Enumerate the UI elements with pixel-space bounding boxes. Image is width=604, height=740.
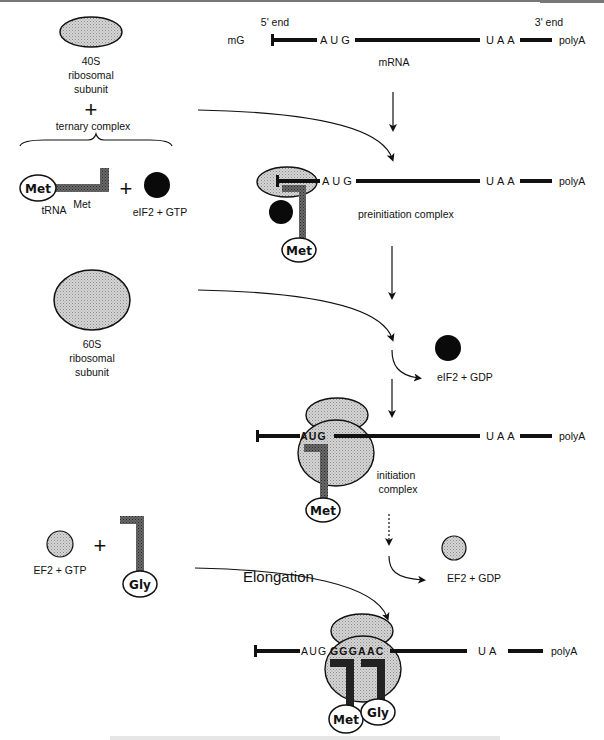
- init-start-codon: AUG: [300, 430, 327, 442]
- elong-cap-icon: [254, 645, 257, 657]
- ternary-complex-label: ternary complex: [56, 120, 131, 132]
- trna-superscript: Met: [73, 198, 91, 210]
- elong-trna-met-body: [346, 659, 354, 711]
- subunit-60s-label-3: subunit: [75, 366, 109, 378]
- subunit-40s-label-2: ribosomal: [68, 69, 114, 81]
- subunit-60s: 60S ribosomal subunit: [54, 270, 130, 378]
- elong-sequence-lead: AUG: [301, 645, 327, 657]
- ef2-gdp-label: EF2 + GDP: [447, 572, 501, 584]
- init-trna-body: [320, 444, 328, 500]
- preinit-met-label: Met: [286, 244, 312, 258]
- preinit-eif2-icon: [269, 200, 293, 224]
- init-met-label: Met: [310, 504, 336, 518]
- trna-gly-body: [136, 516, 144, 578]
- elong-gly-label: Gly: [367, 706, 389, 720]
- arrow-40s-to-preinitiation: [198, 110, 392, 158]
- cap-label: mG: [228, 34, 245, 46]
- trna-label: tRNA: [41, 204, 66, 216]
- brace-icon: [20, 134, 172, 146]
- mrna-free: 5' end 3' end mG AUG UAA polyA mRNA: [228, 16, 586, 68]
- five-prime-label: 5' end: [261, 16, 289, 28]
- start-codon: AUG: [320, 34, 353, 46]
- trna-met-arm: [100, 168, 109, 192]
- elongation-complex: AUG GGGAAC UA polyA Met Gly: [254, 614, 577, 733]
- three-prime-label: 3' end: [535, 16, 563, 28]
- subunit-60s-label-1: 60S: [83, 338, 102, 350]
- subunit-60s-icon: [54, 270, 130, 330]
- arrow-ef2-release: [389, 556, 422, 580]
- arrow-60s-to-initiation: [198, 290, 392, 338]
- plus-sign-3: +: [94, 533, 107, 558]
- trna-met-body: [54, 184, 108, 192]
- subunit-40s-label-3: subunit: [74, 83, 108, 95]
- plus-sign-2: +: [120, 176, 133, 201]
- arrow-eif2-release: [392, 350, 418, 378]
- ef2-gtp-icon: [47, 531, 73, 557]
- met-trna: Met tRNA Met: [20, 168, 109, 216]
- init-stop-codon: UAA: [486, 430, 518, 442]
- initiation-label-1: initiation: [377, 469, 416, 481]
- mrna-label: mRNA: [379, 56, 410, 68]
- eif2-gdp-label: eIF2 + GDP: [437, 371, 493, 383]
- initiation-complex: AUG UAA polyA Met initiation complex: [256, 398, 585, 522]
- preinitiation-complex: Met AUG UAA polyA preinitiation complex: [257, 167, 585, 262]
- polya-label: polyA: [559, 34, 585, 46]
- page-corner-mark: [540, 0, 604, 3]
- eif2-gtp-label: eIF2 + GTP: [133, 206, 188, 218]
- preinit-start-codon: AUG: [322, 175, 355, 187]
- preinit-polya-label: polyA: [559, 175, 585, 187]
- subunit-40s-icon: [60, 17, 122, 47]
- elong-met-label: Met: [333, 713, 359, 727]
- caption-cutoff: [110, 736, 500, 740]
- elong-stop-codon: UA: [478, 645, 499, 657]
- elong-sequence-codons: GGGAAC: [330, 645, 384, 657]
- amino-acid-met-label: Met: [25, 182, 51, 196]
- amino-acid-gly-label: Gly: [129, 578, 151, 592]
- subunit-40s: 40S ribosomal subunit: [60, 17, 122, 95]
- preinit-cap-icon: [276, 175, 279, 187]
- subunit-40s-label-1: 40S: [82, 55, 101, 67]
- eif2-gdp-icon: [435, 335, 461, 361]
- subunit-60s-label-2: ribosomal: [69, 352, 115, 364]
- ef2-gdp-icon: [442, 536, 466, 560]
- preinitiation-label: preinitiation complex: [358, 208, 454, 220]
- plus-sign-1: +: [85, 97, 98, 122]
- translation-diagram: 40S ribosomal subunit + ternary complex …: [0, 0, 604, 740]
- preinit-stop-codon: UAA: [486, 175, 518, 187]
- eif2-gtp-icon: [144, 172, 170, 198]
- ef2-gtp-label: EF2 + GTP: [34, 564, 87, 576]
- stop-codon: UAA: [486, 34, 518, 46]
- elongation-title: Elongation: [243, 568, 314, 585]
- init-cap-icon: [256, 430, 259, 442]
- elong-polya-label: polyA: [551, 645, 577, 657]
- preinit-trna-body: [299, 185, 306, 241]
- cap-icon: [271, 34, 274, 46]
- init-polya-label: polyA: [559, 430, 585, 442]
- gly-trna: Gly: [120, 516, 157, 597]
- initiation-label-2: complex: [378, 483, 418, 495]
